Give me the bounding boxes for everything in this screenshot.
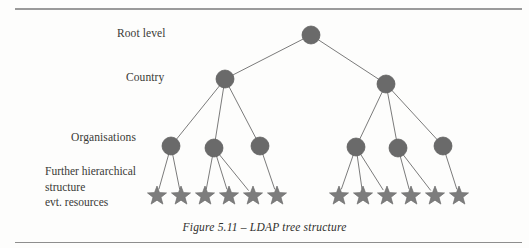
tree-node-circle-o1 bbox=[162, 137, 180, 155]
tree-edge bbox=[175, 84, 221, 141]
tree-edge bbox=[445, 153, 457, 190]
tree-node-star-s3 bbox=[195, 186, 214, 204]
tree-node-circle-o5 bbox=[389, 139, 407, 157]
tree-node-star-s6 bbox=[267, 186, 286, 204]
tree-node-star-s9 bbox=[377, 186, 396, 204]
tree-edge bbox=[357, 154, 362, 189]
tree-node-star-s2 bbox=[171, 186, 190, 204]
tree-node-circle-o2 bbox=[205, 139, 223, 157]
tree-node-star-s10 bbox=[401, 186, 420, 204]
level-label-organisations: Organisations bbox=[71, 131, 136, 144]
tree-node-star-s8 bbox=[353, 186, 372, 204]
level-label-leaves-line-2: structure bbox=[45, 180, 136, 196]
tree-node-star-s7 bbox=[329, 186, 348, 204]
tree-edge bbox=[215, 86, 224, 142]
tree-edge bbox=[172, 153, 179, 189]
tree-node-star-s4 bbox=[219, 186, 238, 204]
tree-node-star-s1 bbox=[147, 186, 166, 204]
tree-edge bbox=[317, 39, 381, 81]
figure-container: Root level Country Organisations Further… bbox=[0, 0, 529, 248]
tree-edge bbox=[359, 90, 383, 141]
tree-edge bbox=[387, 91, 397, 142]
level-label-leaves-line-3: evt. resources bbox=[45, 195, 136, 211]
tree-node-star-s11 bbox=[425, 186, 444, 204]
tree-edge bbox=[228, 85, 257, 140]
figure-caption: Figure 5.11 – LDAP tree structure bbox=[0, 221, 529, 233]
tree-node-star-s12 bbox=[449, 186, 468, 204]
tree-edge bbox=[391, 89, 439, 141]
tree-node-circle-c2 bbox=[377, 75, 395, 93]
level-label-country: Country bbox=[126, 71, 164, 84]
ldap-tree-graphic bbox=[0, 0, 529, 248]
tree-edge bbox=[402, 154, 430, 191]
tree-edge bbox=[360, 153, 384, 190]
edge-layer bbox=[159, 38, 457, 190]
level-label-root: Root level bbox=[117, 27, 166, 40]
tree-edge bbox=[262, 153, 275, 190]
tree-edge bbox=[216, 155, 227, 190]
level-label-leaves-line-1: Further hierarchical bbox=[45, 164, 136, 180]
tree-edge bbox=[159, 153, 169, 190]
tree-node-circle-o3 bbox=[251, 137, 269, 155]
tree-node-circle-root bbox=[302, 26, 320, 44]
tree-node-circle-o4 bbox=[347, 138, 365, 156]
tree-edge bbox=[230, 38, 304, 76]
tree-node-circle-c1 bbox=[216, 70, 234, 88]
tree-node-star-s5 bbox=[243, 186, 262, 204]
tree-edge bbox=[206, 155, 212, 189]
level-label-leaves: Further hierarchical structure evt. reso… bbox=[45, 164, 136, 211]
tree-node-circle-o6 bbox=[434, 137, 452, 155]
tree-edge bbox=[341, 154, 353, 190]
tree-edge bbox=[218, 153, 248, 190]
